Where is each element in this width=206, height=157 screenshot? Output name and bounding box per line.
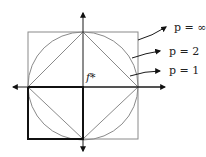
arrow-linf bbox=[138, 27, 166, 40]
label-p-2: p = 2 bbox=[169, 45, 199, 58]
arrow-l1 bbox=[130, 71, 160, 76]
label-p-infinity: p = ∞ bbox=[174, 21, 206, 34]
label-p-1: p = 1 bbox=[169, 64, 199, 77]
center-label: f* bbox=[86, 71, 96, 84]
arrow-l2 bbox=[132, 51, 160, 58]
